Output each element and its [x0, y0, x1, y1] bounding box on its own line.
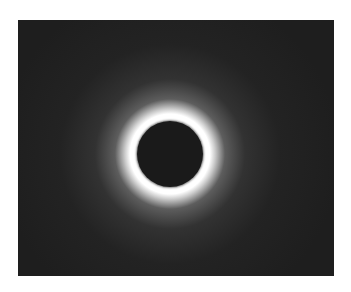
moon-disc — [137, 121, 203, 187]
eclipse-photo — [18, 20, 334, 276]
